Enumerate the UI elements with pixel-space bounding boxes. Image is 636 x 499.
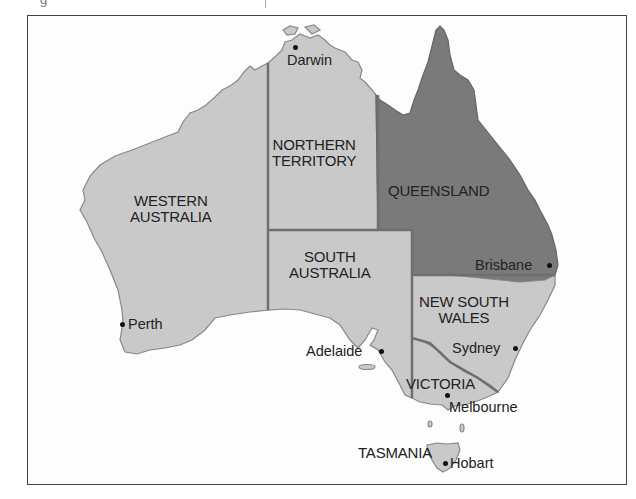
state-label-western-australia: WESTERN AUSTRALIA — [130, 193, 212, 225]
state-label-new-south-wales: NEW SOUTH WALES — [419, 294, 509, 326]
city-dot-melbourne — [445, 393, 450, 398]
state-label-south-australia: SOUTH AUSTRALIA — [289, 249, 371, 281]
city-label-adelaide: Adelaide — [306, 343, 362, 359]
city-dot-adelaide — [379, 349, 384, 354]
city-dot-brisbane — [547, 263, 552, 268]
kangaroo-island — [359, 365, 375, 370]
city-label-brisbane: Brisbane — [475, 257, 532, 273]
tiwi-islands — [305, 25, 320, 34]
city-dot-perth — [120, 322, 125, 327]
city-label-hobart: Hobart — [450, 455, 494, 471]
state-label-tasmania: TASMANIA — [358, 445, 432, 461]
state-label-queensland: QUEENSLAND — [388, 183, 489, 199]
tiwi-islands — [283, 26, 298, 35]
city-dot-hobart — [443, 461, 448, 466]
city-label-darwin: Darwin — [287, 52, 332, 68]
city-label-melbourne: Melbourne — [449, 399, 518, 415]
city-dot-sydney — [513, 346, 518, 351]
island — [428, 421, 432, 427]
city-label-sydney: Sydney — [452, 340, 500, 356]
city-dot-darwin — [293, 45, 298, 50]
city-label-perth: Perth — [128, 316, 163, 332]
state-label-northern-territory: NORTHERN TERRITORY — [272, 137, 356, 169]
island — [460, 424, 464, 432]
state-label-victoria: VICTORIA — [406, 376, 475, 392]
